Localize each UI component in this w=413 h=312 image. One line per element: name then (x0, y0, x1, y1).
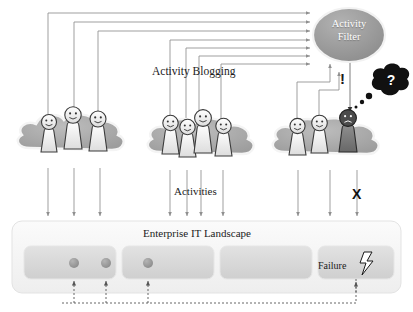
thought-dot-1 (366, 93, 372, 99)
right-group-step-lines (297, 64, 339, 118)
system-dot-3 (143, 258, 153, 268)
exclamation-mark-icon: ! (340, 71, 345, 86)
activity-filter-label-line2: Filter (313, 31, 385, 44)
person-l3 (89, 111, 107, 151)
system-box-2 (122, 246, 214, 279)
person-r3 (339, 110, 357, 152)
system-box-3 (220, 246, 312, 279)
activity-filter-label: Activity Filter (313, 18, 385, 43)
system-dot-2 (101, 258, 111, 268)
person-r1 (289, 118, 306, 155)
blocked-cross-icon: X (352, 187, 361, 201)
person-m4 (215, 118, 232, 156)
thought-bubble: ? (355, 64, 410, 109)
blog-line-4 (170, 40, 310, 118)
person-m3 (194, 110, 212, 153)
thought-dot-2 (360, 100, 364, 104)
thought-dot-3 (355, 106, 358, 109)
connector-layer: ? (0, 0, 413, 312)
thought-bubble-question: ? (387, 72, 396, 88)
blog-line-9 (319, 72, 339, 118)
person-m2 (179, 119, 196, 157)
blog-line-8 (297, 64, 330, 118)
person-r2 (311, 115, 328, 153)
blog-line-5 (186, 48, 310, 118)
person-m1 (162, 115, 179, 154)
person-l1 (41, 115, 57, 153)
system-dot-1 (69, 258, 79, 268)
failure-label: Failure (318, 261, 346, 271)
enterprise-it-landscape-label: Enterprise IT Landscape (143, 228, 251, 239)
activities-label: Activities (174, 186, 217, 197)
activity-blogging-label: Activity Blogging (152, 66, 235, 78)
diagram-canvas: ? Activity Filter Activity Blogging Acti… (0, 0, 413, 312)
person-l2 (64, 107, 82, 149)
activity-filter-label-line1: Activity (313, 18, 385, 31)
